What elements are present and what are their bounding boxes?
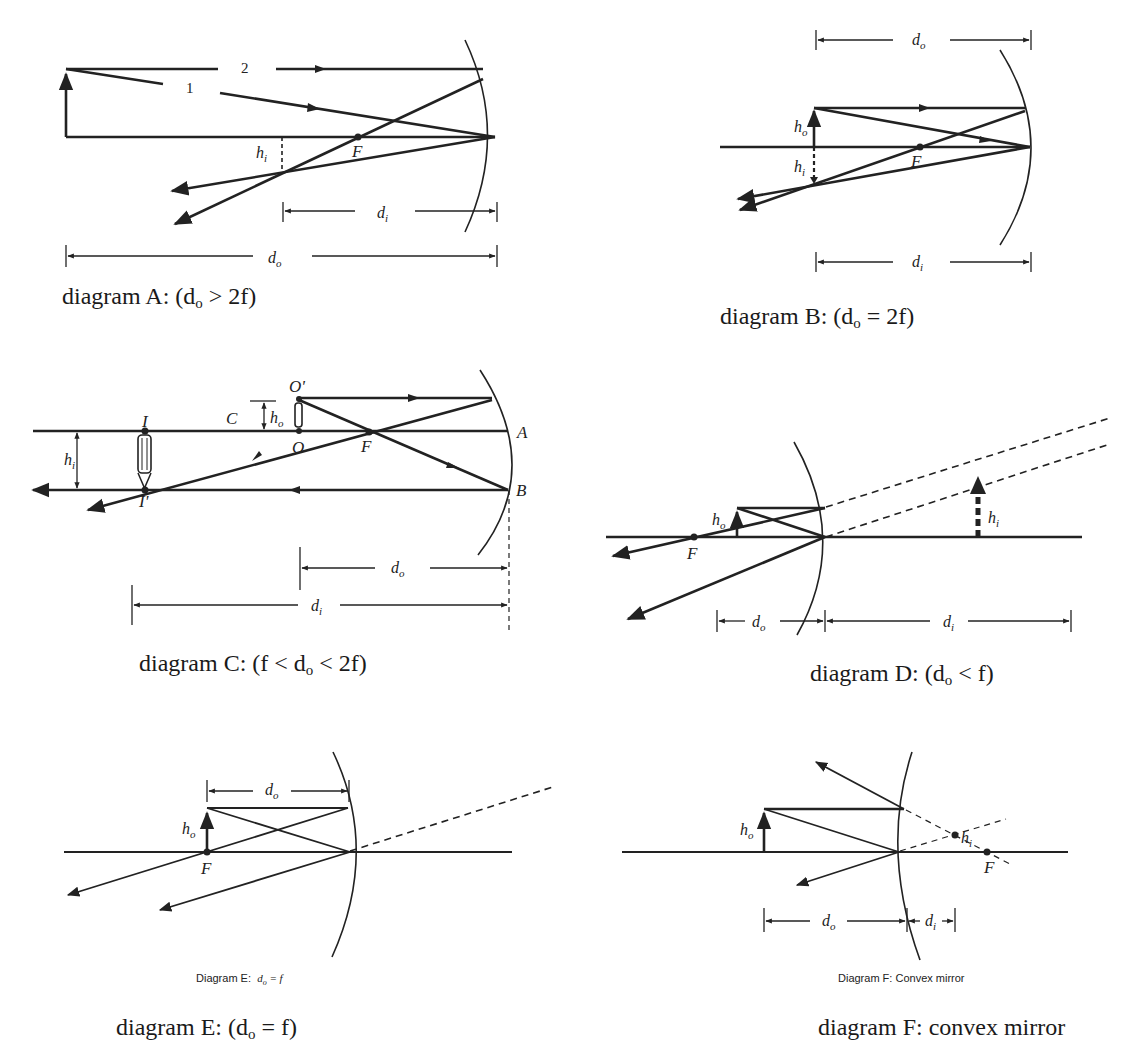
image-height-label: hi: [64, 451, 75, 471]
object-distance-label: do: [912, 31, 926, 51]
focal-point-dot: [691, 534, 698, 541]
focal-point-dot: [366, 429, 373, 436]
virtual-image-dot: [952, 832, 959, 839]
caption-diagram-c: diagram C: (f < do < 2f): [139, 650, 367, 679]
vertex-ray-reflected: [738, 147, 1030, 199]
diagram-b: F ho hi do di: [720, 30, 1031, 273]
reflected-focal-ray: [88, 400, 492, 510]
ray-diagrams-canvas: 1 2 F hi di do F ho hi: [0, 0, 1143, 1057]
caption-diagram-a: diagram A: (do > 2f): [62, 283, 256, 312]
focus-label: F: [360, 437, 372, 456]
diagram-c: O' O C F I I' A B ho hi do di: [33, 370, 528, 630]
object-base-label: O: [292, 438, 304, 457]
image-height-label: hi: [794, 158, 805, 178]
object-top-label: O': [289, 377, 305, 396]
ray-1-label: 1: [186, 80, 194, 96]
object-distance-label: do: [265, 781, 279, 801]
ray-1-incident-b: [220, 93, 495, 137]
inner-caption-diagram-f: Diagram F: Convex mirror: [838, 972, 965, 984]
focal-point-dot: [204, 849, 211, 856]
focal-point-dot: [917, 144, 924, 151]
object-distance-label: do: [822, 912, 836, 932]
image-pencil: [138, 435, 151, 473]
reflected-vertex-ray: [160, 852, 350, 910]
focal-point-dot: [984, 849, 991, 856]
convex-mirror: [898, 752, 920, 960]
image-distance-label: di: [943, 613, 954, 633]
virtual-ray-extension-1: [826, 418, 1110, 507]
focus-label: F: [351, 142, 363, 161]
reflected-vertex-ray: [797, 852, 899, 885]
reflected-vertex-ray: [628, 537, 825, 619]
focus-label: F: [983, 858, 995, 877]
virtual-ray-extension: [350, 786, 556, 851]
image-distance-label: di: [311, 597, 322, 617]
diagram-d: F ho hi do di: [606, 418, 1110, 635]
point-b-label: B: [516, 481, 527, 500]
ray-1-incident-a: [66, 69, 163, 84]
object-distance-label: do: [752, 613, 766, 633]
diagram-f: F ho hi do di: [622, 752, 1068, 960]
caption-diagram-b: diagram B: (do = 2f): [720, 303, 914, 332]
object-distance-label: do: [391, 559, 405, 579]
object-distance-label: do: [268, 249, 282, 269]
image-top-label: I: [141, 412, 149, 431]
diagram-e: F ho do: [64, 752, 556, 957]
object-pencil: [295, 403, 302, 427]
virtual-extension-to-focus: [906, 810, 1012, 865]
center-of-curvature-label: C: [226, 409, 238, 428]
diagram-a: 1 2 F hi di do: [66, 40, 497, 269]
caption-diagram-e: diagram E: (do = f): [116, 1014, 297, 1043]
reflected-parallel-ray: [816, 762, 904, 809]
vertex-ray: [814, 108, 1030, 147]
object-height-label: ho: [182, 820, 196, 840]
object-height-label: ho: [270, 409, 284, 429]
point-a-label: A: [516, 423, 528, 442]
focal-point-dot: [355, 134, 362, 141]
image-height-label: hi: [988, 509, 999, 529]
ray-2-reflected: [175, 79, 483, 224]
virtual-ray-extension-2: [826, 444, 1110, 537]
object-height-label: ho: [794, 118, 808, 138]
focus-label: F: [910, 152, 922, 171]
direction-arrow-icon: [315, 65, 326, 73]
image-distance-label: di: [377, 204, 388, 224]
focus-label: F: [200, 859, 212, 878]
image-tip-label: I': [138, 492, 149, 511]
ray-2-label: 2: [241, 60, 249, 76]
caption-diagram-f: diagram F: convex mirror: [818, 1014, 1065, 1041]
image-height-label: hi: [256, 144, 267, 164]
object-height-label: ho: [740, 821, 754, 841]
inner-caption-diagram-e: Diagram E: do = f: [196, 972, 283, 987]
focal-ray-reflected: [740, 111, 1025, 210]
image-height-label: hi: [961, 829, 972, 849]
object-height-label: ho: [712, 511, 726, 531]
caption-diagram-d: diagram D: (do < f): [810, 660, 994, 689]
image-distance-label: di: [912, 253, 923, 273]
vertex-ray: [764, 809, 899, 852]
ray-1-reflected: [172, 137, 495, 191]
focus-label: F: [686, 544, 698, 563]
image-distance-label: di: [925, 912, 936, 932]
vertex-ray: [737, 508, 825, 537]
